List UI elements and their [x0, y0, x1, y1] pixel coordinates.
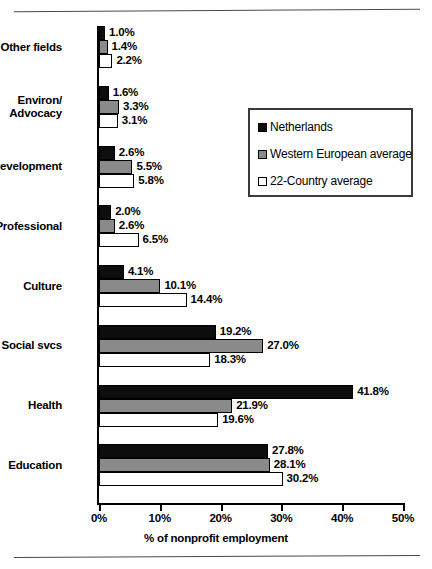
bar-row: 4.1%: [99, 265, 403, 279]
category-label-line: Social svcs: [2, 339, 62, 351]
bar-value-label: 6.5%: [143, 232, 168, 247]
bar-row: 30.2%: [99, 472, 403, 486]
category-label-line: Health: [28, 399, 62, 411]
bar[interactable]: [99, 353, 210, 367]
bar[interactable]: [99, 54, 112, 68]
bar[interactable]: [99, 100, 119, 114]
category-label-line: Professional: [0, 220, 62, 232]
category-label: Health: [0, 399, 62, 412]
category-label-line: Development: [0, 160, 62, 172]
bar-value-label: 27.8%: [272, 443, 304, 458]
bar[interactable]: [99, 325, 216, 339]
bar-row: 1.4%: [99, 40, 403, 54]
bar-value-label: 28.1%: [274, 457, 306, 472]
category-label: Other fields: [0, 41, 62, 54]
bar[interactable]: [99, 293, 187, 307]
category-label: Development: [0, 160, 62, 173]
bar-value-label: 2.6%: [119, 145, 144, 160]
bar[interactable]: [99, 146, 115, 160]
bar-row: 14.4%: [99, 293, 403, 307]
bar[interactable]: [99, 472, 283, 486]
bar-row: 19.6%: [99, 413, 403, 427]
bar[interactable]: [99, 399, 232, 413]
bar[interactable]: [99, 444, 268, 458]
bar-value-label: 19.6%: [222, 412, 254, 427]
bar-value-label: 41.8%: [357, 384, 389, 399]
white-square-icon: [258, 177, 267, 186]
axis-tick-label: 40%: [319, 512, 365, 524]
legend-item[interactable]: Western European average: [258, 147, 412, 161]
legend-item-label: Western European average: [270, 147, 412, 161]
bar[interactable]: [99, 205, 111, 219]
bar[interactable]: [99, 219, 115, 233]
bar[interactable]: [99, 458, 270, 472]
category-label: Culture: [0, 280, 62, 293]
bar-value-label: 3.1%: [122, 113, 147, 128]
bar-value-label: 3.3%: [123, 99, 148, 114]
category-label-line: Other fields: [0, 41, 62, 53]
bar[interactable]: [99, 265, 124, 279]
bar-value-label: 2.6%: [119, 218, 144, 233]
legend-item-label: 22-Country average: [270, 174, 372, 188]
bar-value-label: 21.9%: [236, 398, 268, 413]
bar-row: 18.3%: [99, 353, 403, 367]
bar[interactable]: [99, 114, 118, 128]
axis-tick: [99, 505, 101, 511]
bar-row: 1.6%: [99, 86, 403, 100]
bar-value-label: 2.0%: [115, 204, 140, 219]
bar[interactable]: [99, 86, 109, 100]
category-label-line: Environ/: [18, 94, 62, 106]
bar[interactable]: [99, 233, 139, 247]
category-label-line: Education: [8, 459, 62, 471]
category-label: Education: [0, 459, 62, 472]
category-label-line: Culture: [23, 280, 62, 292]
bar-row: 21.9%: [99, 399, 403, 413]
bar-value-label: 27.0%: [267, 338, 299, 353]
black-square-icon: [258, 123, 267, 132]
bar[interactable]: [99, 26, 105, 40]
bar[interactable]: [99, 40, 108, 54]
bar-row: 1.0%: [99, 26, 403, 40]
bar-value-label: 19.2%: [220, 324, 252, 339]
bar-row: 2.6%: [99, 219, 403, 233]
category-label: Professional: [0, 220, 62, 233]
bar[interactable]: [99, 174, 134, 188]
bar-value-label: 30.2%: [287, 471, 319, 486]
bar[interactable]: [99, 279, 160, 293]
bar-row: 27.0%: [99, 339, 403, 353]
bar-row: 19.2%: [99, 325, 403, 339]
category-label: Environ/Advocacy: [0, 94, 62, 120]
axis-tick-label: 0%: [76, 512, 122, 524]
bar-row: 2.0%: [99, 205, 403, 219]
bar-row: 41.8%: [99, 385, 403, 399]
bar-row: 10.1%: [99, 279, 403, 293]
bar[interactable]: [99, 339, 263, 353]
legend-item[interactable]: 22-Country average: [258, 174, 372, 188]
axis-tick: [281, 505, 283, 511]
legend-item-label: Netherlands: [270, 120, 333, 134]
legend-item[interactable]: Netherlands: [258, 120, 333, 134]
category-label-line: Advocacy: [9, 107, 62, 119]
axis-tick-label: 50%: [380, 512, 426, 524]
bar-value-label: 2.2%: [116, 53, 141, 68]
bar-value-label: 5.5%: [136, 159, 161, 174]
chart-legend: NetherlandsWestern European average22-Co…: [248, 108, 413, 197]
bar-row: 6.5%: [99, 233, 403, 247]
axis-tick: [342, 505, 344, 511]
category-label: Social svcs: [0, 339, 62, 352]
bar-value-label: 18.3%: [214, 352, 246, 367]
bar[interactable]: [99, 385, 353, 399]
bar-row: 28.1%: [99, 458, 403, 472]
bar[interactable]: [99, 413, 218, 427]
bar-value-label: 10.1%: [164, 278, 196, 293]
bar-chart: 0%10%20%30%40%50% Other fields1.0%1.4%2.…: [0, 0, 432, 569]
bar[interactable]: [99, 160, 132, 174]
bar-row: 2.2%: [99, 54, 403, 68]
x-axis-title: % of nonprofit employment: [0, 532, 432, 544]
gray-square-icon: [258, 150, 267, 159]
bar-value-label: 1.6%: [113, 85, 138, 100]
axis-tick: [160, 505, 162, 511]
axis-tick: [221, 505, 223, 511]
bar-value-label: 14.4%: [191, 292, 223, 307]
bar-row: 27.8%: [99, 444, 403, 458]
